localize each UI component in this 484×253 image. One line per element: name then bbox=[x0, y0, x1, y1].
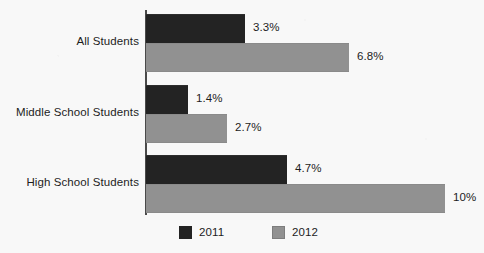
legend-item-2012[interactable]: 2012 bbox=[272, 224, 318, 240]
category-label-all-students: All Students bbox=[0, 34, 139, 48]
bar-value-2011-high-school-students: 4.7% bbox=[295, 162, 322, 174]
legend-label-2011: 2011 bbox=[199, 226, 224, 238]
bar-2011-middle-school-students[interactable] bbox=[146, 85, 188, 115]
bar-value-2012-high-school-students: 10% bbox=[453, 191, 476, 203]
bar-2011-all-students[interactable] bbox=[146, 14, 245, 44]
legend-item-2011[interactable]: 2011 bbox=[179, 224, 224, 240]
bar-value-2011-all-students: 3.3% bbox=[253, 21, 280, 33]
bar-2012-all-students[interactable] bbox=[146, 43, 349, 72]
legend-label-2012: 2012 bbox=[292, 226, 318, 238]
chart-legend: 2011 2012 bbox=[0, 224, 484, 244]
plot-area: All Students 3.3% 6.8% Middle School Stu… bbox=[0, 0, 484, 216]
bar-chart: All Students 3.3% 6.8% Middle School Stu… bbox=[0, 0, 484, 253]
legend-swatch-2011-icon bbox=[179, 226, 192, 239]
category-label-middle-school-students: Middle School Students bbox=[0, 105, 139, 119]
bar-2012-high-school-students[interactable] bbox=[146, 184, 445, 213]
category-label-high-school-students: High School Students bbox=[0, 175, 139, 189]
bar-value-2011-middle-school-students: 1.4% bbox=[196, 92, 223, 104]
bar-value-2012-middle-school-students: 2.7% bbox=[235, 121, 262, 133]
bar-value-2012-all-students: 6.8% bbox=[357, 50, 384, 62]
bar-2011-high-school-students[interactable] bbox=[146, 155, 287, 185]
legend-swatch-2012-icon bbox=[272, 226, 285, 239]
bar-2012-middle-school-students[interactable] bbox=[146, 114, 227, 143]
